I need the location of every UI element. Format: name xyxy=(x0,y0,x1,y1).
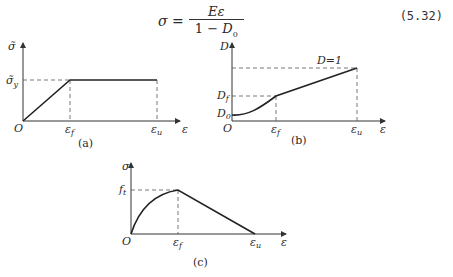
origin-label: O xyxy=(122,235,131,248)
figure-canvas: σ̃ σ̃y O εf εu ε (a) D Df D0 O D=1 εf εu… xyxy=(0,0,453,277)
panel-a: σ̃ σ̃y O εf εu ε (a) xyxy=(6,40,188,150)
y-label: D xyxy=(219,40,229,53)
x-tick-eps-f: εf xyxy=(173,236,184,250)
curve-c xyxy=(131,190,255,234)
caption-c: (c) xyxy=(193,256,208,269)
x-label: ε xyxy=(182,123,188,136)
y-tick-d-f: Df xyxy=(216,89,231,103)
x-label: ε xyxy=(281,236,287,249)
curve-a xyxy=(23,80,157,121)
panel-b: D Df D0 O D=1 εf εu ε (b) xyxy=(216,40,386,147)
origin-label: O xyxy=(223,122,232,135)
panel-c: σ ft O εf εu ε (c) xyxy=(118,160,287,269)
y-label: σ̃ xyxy=(8,40,16,53)
annotation-d-equals-1: D=1 xyxy=(316,54,342,67)
caption-a: (a) xyxy=(78,137,93,150)
origin-label: O xyxy=(14,122,23,135)
y-label: σ xyxy=(122,160,130,173)
x-tick-eps-u: εu xyxy=(351,123,362,137)
caption-b: (b) xyxy=(291,134,307,147)
x-tick-eps-f: εf xyxy=(271,123,282,137)
curve-b xyxy=(232,68,357,115)
y-tick-d-0: D0 xyxy=(216,107,231,121)
x-tick-eps-u: εu xyxy=(151,123,162,137)
y-tick-f-t: ft xyxy=(118,183,127,197)
x-tick-eps-f: εf xyxy=(65,123,76,137)
x-label: ε xyxy=(380,123,386,136)
y-tick-sigma: σ̃y xyxy=(6,74,19,89)
x-tick-eps-u: εu xyxy=(250,236,261,250)
